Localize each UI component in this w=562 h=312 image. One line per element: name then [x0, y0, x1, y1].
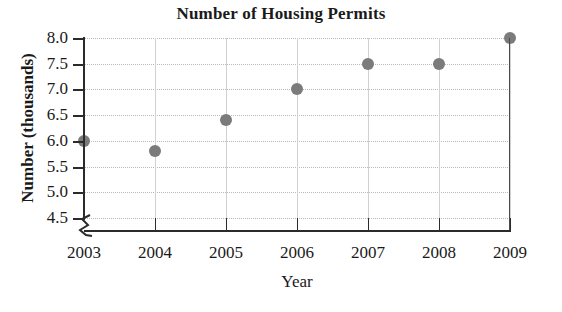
x-tick-label: 2005	[190, 244, 262, 261]
y-tick-label: 7.5	[22, 55, 68, 72]
y-tick-mark	[73, 64, 85, 66]
x-tick-label: 2004	[119, 244, 191, 261]
x-tick-mark	[368, 218, 369, 230]
x-tick-label: 2007	[332, 244, 404, 261]
data-point	[291, 83, 303, 95]
y-tick-mark	[73, 115, 85, 117]
data-point	[362, 58, 374, 70]
y-tick-label: 5.0	[22, 183, 68, 200]
vertical-gridline	[226, 38, 227, 218]
plot-area	[84, 38, 510, 218]
x-tick-label: 2003	[48, 244, 120, 261]
vertical-gridline	[297, 38, 298, 218]
housing-permits-scatter-chart: Number of Housing Permits Number (thousa…	[0, 0, 562, 312]
y-tick-label: 4.5	[22, 209, 68, 226]
x-tick-mark	[226, 218, 227, 230]
x-tick-mark	[155, 218, 156, 230]
chart-title: Number of Housing Permits	[0, 4, 562, 24]
vertical-gridline	[510, 38, 511, 218]
y-tick-mark	[73, 218, 85, 220]
x-tick-label: 2009	[474, 244, 546, 261]
y-tick-mark	[73, 167, 85, 169]
x-tick-mark	[510, 218, 511, 230]
data-point	[149, 145, 161, 157]
x-tick-label: 2006	[261, 244, 333, 261]
y-tick-mark	[73, 141, 85, 143]
y-tick-label: 8.0	[22, 29, 68, 46]
y-tick-mark	[73, 192, 85, 194]
plot-right-border	[509, 38, 510, 230]
data-point	[504, 32, 516, 44]
y-tick-label: 6.0	[22, 132, 68, 149]
data-point	[433, 58, 445, 70]
y-tick-mark	[73, 89, 85, 91]
y-tick-label: 7.0	[22, 80, 68, 97]
x-tick-mark	[297, 218, 298, 230]
x-tick-label: 2008	[403, 244, 475, 261]
x-axis-line	[84, 230, 511, 232]
vertical-gridline	[155, 38, 156, 218]
y-tick-label: 6.5	[22, 106, 68, 123]
x-axis-title: Year	[84, 272, 510, 292]
data-point	[220, 114, 232, 126]
y-tick-mark	[73, 38, 85, 40]
x-tick-mark	[439, 218, 440, 230]
y-tick-label: 5.5	[22, 158, 68, 175]
